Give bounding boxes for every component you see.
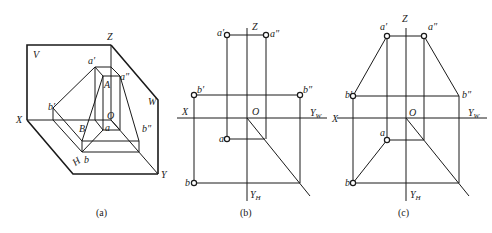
caption-c: (c) xyxy=(398,207,409,219)
line-ab-v xyxy=(53,67,95,108)
point-b xyxy=(191,180,196,185)
label-a-prime: a′ xyxy=(380,21,388,32)
line-ab-w xyxy=(120,76,139,141)
label-b: b xyxy=(185,177,190,188)
label-b-double-prime: b″ xyxy=(462,89,472,100)
label-a-prime: a′ xyxy=(217,27,225,38)
panel-b-projection: Z X O YW YH a′ a″ b′ b″ a b (b) xyxy=(177,21,327,219)
miter-line-45 xyxy=(406,118,469,196)
label-b-prime: b′ xyxy=(48,101,56,112)
line-ab xyxy=(82,76,103,141)
label-y: Y xyxy=(161,169,168,180)
label-b-prime: b′ xyxy=(197,84,205,95)
point-a-prime xyxy=(224,32,229,37)
label-b-double-prime: b″ xyxy=(303,84,313,95)
line-ab-top xyxy=(353,140,387,183)
label-a-double-prime: a″ xyxy=(270,28,280,39)
label-x: X xyxy=(181,106,189,117)
label-b-double-prime: b″ xyxy=(142,123,152,134)
v-plane-outline xyxy=(27,45,111,120)
panel-c-projection: Z X O YW YH a′ a″ b′ b″ a b (c) xyxy=(331,13,487,219)
label-z: Z xyxy=(402,13,408,24)
caption-b: (b) xyxy=(240,207,252,219)
label-yh: YH xyxy=(410,189,422,202)
label-a-prime: a′ xyxy=(88,55,96,66)
label-o: O xyxy=(107,110,114,121)
box-a-top xyxy=(95,67,120,76)
label-a-double-prime: a″ xyxy=(120,71,130,82)
projection-figure: V Z W X Y H O a′ a″ A B b′ b″ a b (a) xyxy=(0,0,492,233)
panel-a-pictorial: V Z W X Y H O a′ a″ A B b′ b″ a b (a) xyxy=(15,31,168,219)
point-b-double-prime xyxy=(297,92,302,97)
label-yh: YH xyxy=(250,189,262,202)
label-a-double-prime: a″ xyxy=(428,21,438,32)
label-x: X xyxy=(331,113,339,124)
label-o: O xyxy=(252,106,259,117)
caption-a: (a) xyxy=(96,207,107,219)
point-a-double-prime xyxy=(421,33,426,38)
miter-line-45 xyxy=(247,118,310,196)
label-a: a xyxy=(380,127,385,138)
point-a-prime xyxy=(384,33,389,38)
point-b-prime xyxy=(191,92,196,97)
label-h: H xyxy=(69,154,83,168)
label-b-prime: b′ xyxy=(345,89,353,100)
label-a: a xyxy=(105,122,110,133)
label-b: b xyxy=(84,154,89,165)
point-a xyxy=(224,136,229,141)
point-a-double-prime xyxy=(263,32,268,37)
line-ab-front xyxy=(353,36,387,96)
label-b: b xyxy=(345,177,350,188)
label-B: B xyxy=(79,123,85,134)
point-b xyxy=(350,180,355,185)
label-A: A xyxy=(103,79,111,90)
line-ab-side xyxy=(424,36,459,96)
label-o: O xyxy=(409,107,416,118)
point-a xyxy=(384,137,389,142)
h-plane-outline xyxy=(27,120,158,174)
label-z: Z xyxy=(107,31,113,42)
label-x: X xyxy=(15,114,23,125)
label-z: Z xyxy=(252,21,258,32)
label-v: V xyxy=(33,49,41,60)
label-a: a xyxy=(219,133,224,144)
w-plane-outline xyxy=(111,45,158,174)
